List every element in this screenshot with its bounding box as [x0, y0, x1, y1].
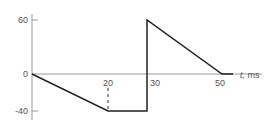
y-tick-label-neg40: -40 — [15, 106, 28, 116]
chart-canvas: 60 0 -40 20 30 50 t, ms — [0, 0, 277, 129]
y-tick-label-0: 0 — [23, 69, 28, 79]
x-tick-label-50: 50 — [215, 78, 225, 88]
x-axis-label: t, ms — [240, 70, 260, 80]
x-tick-label-20: 20 — [103, 78, 113, 88]
x-axis-unit: ms — [245, 70, 260, 80]
waveform-line — [32, 20, 233, 111]
x-tick-label-30: 30 — [150, 78, 160, 88]
y-tick-label-60: 60 — [18, 15, 28, 25]
